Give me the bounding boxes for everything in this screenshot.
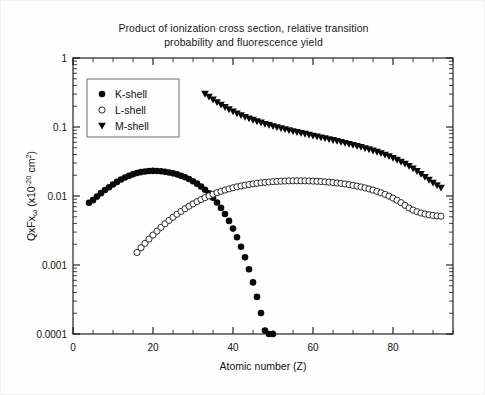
chart-plot: 02040608010.10.010.0010.0001Atomic numbe… [1,1,485,395]
x-tick-label: 0 [70,342,76,353]
data-point [437,185,445,192]
series-k-shell [86,168,277,338]
data-point [250,279,257,286]
data-point [230,225,237,232]
data-point [270,331,277,338]
data-point [242,254,249,261]
series-l-shell [134,178,444,256]
data-point [238,243,245,250]
legend-label-m-shell: M-shell [115,120,149,132]
legend-marker-l-shell [99,107,105,113]
y-tick-label: 0.0001 [36,329,67,340]
y-tick-label: 0.01 [48,191,68,202]
legend-marker-k-shell [99,91,106,98]
data-point [218,205,225,212]
x-tick-label: 20 [147,342,159,353]
figure-container: Product of ionization cross section, rel… [0,0,485,395]
data-point [258,310,265,317]
y-tick-label: 1 [61,53,67,64]
data-point [438,213,444,219]
data-point [234,234,241,241]
x-axis-title: Atomic number (Z) [220,360,307,372]
series-m-shell [201,91,445,192]
x-tick-label: 80 [387,342,399,353]
x-tick-label: 40 [227,342,239,353]
data-point [226,218,233,225]
legend-label-k-shell: K-shell [115,88,147,100]
data-point [222,211,229,218]
legend-label-l-shell: L-shell [115,104,146,116]
data-point [246,266,253,273]
y-axis-title: QxFxω (x10-20 cm2) [24,151,39,241]
y-tick-label: 0.001 [42,260,67,271]
x-tick-label: 60 [307,342,319,353]
data-point [214,199,221,206]
y-tick-label: 0.1 [53,122,67,133]
data-point [254,294,261,301]
